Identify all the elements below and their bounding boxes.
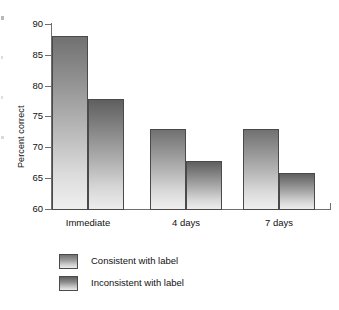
y-tick-65 (45, 178, 51, 179)
y-tick-label-75: 75 (1, 111, 43, 121)
legend-swatch-icon (59, 276, 78, 291)
bar-4days-consistent (150, 129, 186, 210)
y-tick-60 (45, 209, 51, 210)
legend-label-inconsistent: Inconsistent with label (91, 277, 184, 289)
bar-7days-inconsistent (279, 173, 315, 210)
scan-artifact (1, 136, 4, 139)
y-tick-label-90: 90 (1, 19, 43, 29)
legend-swatch-icon (59, 254, 78, 269)
bar-7days-consistent (243, 129, 279, 210)
y-tick-70 (45, 147, 51, 148)
y-tick-label-85: 85 (1, 50, 43, 60)
bar-4days-inconsistent (186, 161, 222, 210)
bar-chart-figure: Percent correct 90 85 80 75 70 65 60 Imm… (0, 0, 339, 310)
y-tick-label-70: 70 (1, 142, 43, 152)
x-axis-label-7days: 7 days (239, 217, 319, 229)
y-tick-80 (45, 86, 51, 87)
y-tick-90 (45, 24, 51, 25)
y-tick-label-65: 65 (1, 173, 43, 183)
y-tick-85 (45, 55, 51, 56)
bar-immediate-consistent (52, 36, 88, 210)
scan-artifact (1, 96, 3, 99)
bar-immediate-inconsistent (88, 99, 124, 210)
y-tick-label-60: 60 (1, 204, 43, 214)
y-tick-75 (45, 116, 51, 117)
legend-label-consistent: Consistent with label (91, 255, 178, 267)
x-axis-right-cap (330, 203, 331, 210)
x-axis-label-4days: 4 days (146, 217, 226, 229)
x-axis-label-immediate: Immediate (48, 217, 128, 229)
y-tick-label-80: 80 (1, 81, 43, 91)
